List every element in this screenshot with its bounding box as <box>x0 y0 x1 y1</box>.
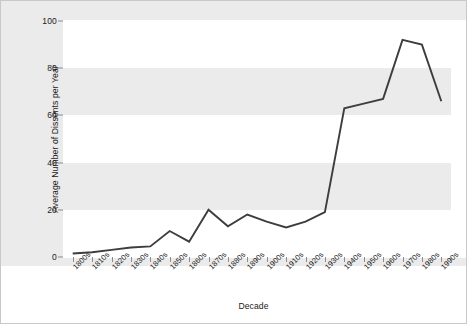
plot-area <box>63 21 451 257</box>
y-axis-tick-labels: 020406080100 <box>1 1 57 324</box>
x-axis-label-container: Decade <box>1 301 466 311</box>
y-tick-label: 80 <box>47 63 57 73</box>
y-tick-label: 60 <box>47 110 57 120</box>
y-tick-mark <box>58 21 63 22</box>
y-tick-mark <box>58 68 63 69</box>
y-tick-mark <box>58 209 63 210</box>
y-tick-label: 100 <box>42 16 57 26</box>
series-polyline <box>73 40 442 254</box>
x-axis-label: Decade <box>198 301 268 311</box>
y-tick-label: 20 <box>47 205 57 215</box>
dissents-line-series <box>63 21 451 257</box>
grid-band-top <box>1 1 466 20</box>
y-tick-label: 40 <box>47 158 57 168</box>
y-tick-mark <box>58 115 63 116</box>
chart-figure: Average Number of Dissents per Year 0204… <box>0 0 467 324</box>
y-tick-label: 0 <box>52 252 57 262</box>
y-tick-mark <box>58 257 63 258</box>
y-tick-mark <box>58 162 63 163</box>
